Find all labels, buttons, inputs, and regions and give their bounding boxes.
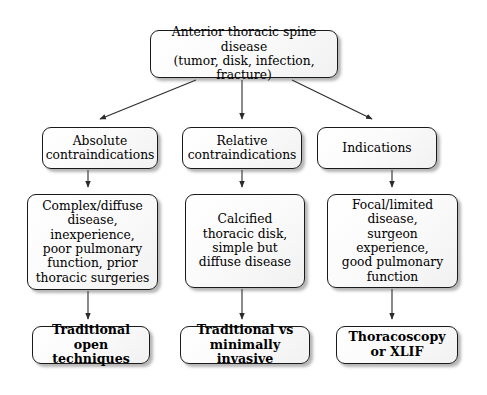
absolute-detail-line-2: disease, xyxy=(31,213,155,227)
root-line-2: (tumor, disk, infection, fracture) xyxy=(151,54,337,83)
absolute-outcome-line-1: Traditional xyxy=(33,323,149,338)
node-indications: Indications xyxy=(317,127,437,169)
absolute-label-line-1: Absolute xyxy=(41,134,160,148)
indications-detail-line-1: Focal/limited disease, xyxy=(328,198,457,227)
relative-detail-line-4: diffuse disease xyxy=(194,255,296,269)
indications-detail-line-3: good pulmonary xyxy=(328,255,457,269)
node-root-disease: Anterior thoracic spine disease (tumor, … xyxy=(150,30,338,78)
relative-detail-line-3: simple but xyxy=(194,241,296,255)
indications-label-line-1: Indications xyxy=(337,141,416,155)
relative-detail-line-1: Calcified xyxy=(194,212,296,226)
indications-detail-line-2: surgeon experience, xyxy=(328,227,457,256)
absolute-detail-line-3: inexperience, xyxy=(31,228,155,242)
relative-detail-line-2: thoracic disk, xyxy=(194,227,296,241)
node-relative-outcome: Traditional vs minimally invasive xyxy=(180,326,310,364)
relative-outcome-line-1: Traditional vs xyxy=(181,323,309,338)
absolute-label-line-2: contraindications xyxy=(41,148,160,162)
connector-root-to-indications xyxy=(292,80,372,119)
node-relative-detail: Calcified thoracic disk, simple but diff… xyxy=(185,194,305,288)
absolute-detail-line-1: Complex/diffuse xyxy=(31,199,155,213)
absolute-detail-line-4: poor pulmonary xyxy=(31,242,155,256)
relative-outcome-line-2: minimally invasive xyxy=(181,338,309,367)
node-absolute-contraindications: Absolute contraindications xyxy=(42,127,158,169)
node-indications-outcome: Thoracoscopy or XLIF xyxy=(336,326,458,364)
indications-outcome-line-1: Thoracoscopy xyxy=(343,330,450,345)
indications-outcome-line-2: or XLIF xyxy=(343,345,450,360)
absolute-detail-line-5: function, prior xyxy=(31,256,155,270)
absolute-outcome-line-2: open techniques xyxy=(33,338,149,367)
connector-root-to-absolute xyxy=(100,80,196,119)
node-absolute-detail: Complex/diffuse disease, inexperience, p… xyxy=(27,194,158,290)
relative-label-line-2: contraindications xyxy=(183,148,302,162)
indications-detail-line-4: function xyxy=(328,270,457,284)
node-absolute-outcome: Traditional open techniques xyxy=(32,326,150,364)
flowchart-diagram: Anterior thoracic spine disease (tumor, … xyxy=(0,0,487,395)
node-indications-detail: Focal/limited disease, surgeon experienc… xyxy=(327,194,458,288)
node-relative-contraindications: Relative contraindications xyxy=(182,127,302,169)
absolute-detail-line-6: thoracic surgeries xyxy=(31,271,155,285)
relative-label-line-1: Relative xyxy=(183,134,302,148)
root-line-1: Anterior thoracic spine disease xyxy=(151,25,337,54)
